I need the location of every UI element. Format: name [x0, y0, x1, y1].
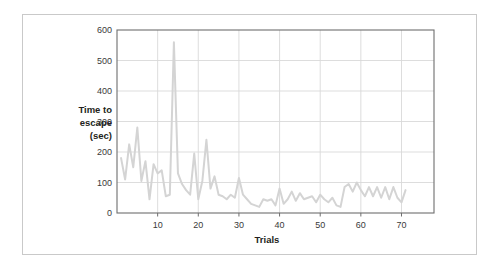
x-axis-title: Trials — [255, 234, 280, 245]
y-tick-label-0: 0 — [107, 208, 112, 218]
y-tick-label-200: 200 — [97, 147, 112, 157]
x-tick-label-40: 40 — [275, 220, 285, 230]
y-tick-label-500: 500 — [97, 56, 112, 66]
x-axis-tick-labels: 10203040506070 — [153, 220, 407, 230]
y-axis-title-line-3: (sec) — [90, 130, 112, 141]
x-tick-label-30: 30 — [234, 220, 244, 230]
x-tick-label-70: 70 — [396, 220, 406, 230]
y-tick-label-100: 100 — [97, 178, 112, 188]
chart-svg: 0100200300400500600 10203040506070 Time … — [0, 0, 500, 270]
y-axis-title-line-2: escape — [80, 117, 112, 128]
x-tick-label-10: 10 — [153, 220, 163, 230]
x-tick-label-50: 50 — [315, 220, 325, 230]
line-chart: 0100200300400500600 10203040506070 Time … — [0, 0, 500, 270]
y-axis-title-line-1: Time to — [78, 104, 112, 115]
x-tick-label-20: 20 — [193, 220, 203, 230]
y-tick-label-400: 400 — [97, 86, 112, 96]
y-tick-label-600: 600 — [97, 25, 112, 35]
figure-root: 0100200300400500600 10203040506070 Time … — [0, 0, 500, 270]
x-tick-label-60: 60 — [356, 220, 366, 230]
